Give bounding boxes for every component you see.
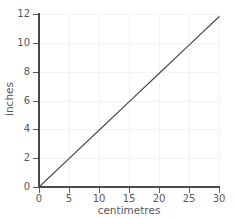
- x-axis-tick-label: 30: [207, 194, 231, 204]
- y-axis-tick-label: 2: [24, 153, 30, 163]
- gridline-vertical: [219, 14, 220, 187]
- y-axis-tick-label: 0: [24, 182, 30, 192]
- y-axis-tick: [33, 72, 38, 73]
- conversion-chart-figure: 024681012 051015202530 centimetres inche…: [0, 0, 236, 218]
- y-axis-tick-label: 6: [24, 96, 30, 106]
- y-axis-tick: [33, 129, 38, 130]
- plot-area: [39, 14, 219, 187]
- y-axis-tick: [33, 14, 38, 15]
- y-axis-spine: [38, 13, 40, 188]
- x-axis-tick-label: 25: [177, 194, 201, 204]
- x-axis-tick-label: 5: [57, 194, 81, 204]
- x-axis-title: centimetres: [39, 204, 219, 216]
- y-axis-tick: [33, 187, 38, 188]
- y-axis-tick-label: 12: [17, 9, 30, 19]
- y-axis-tick: [33, 158, 38, 159]
- y-axis-tick-label: 8: [24, 67, 30, 77]
- y-axis-title: inches: [3, 69, 15, 129]
- y-axis-tick: [33, 101, 38, 102]
- x-axis-tick-label: 20: [147, 194, 171, 204]
- data-line-svg: [39, 14, 219, 187]
- y-axis-tick-label: 4: [24, 124, 30, 134]
- x-axis-tick-label: 15: [117, 194, 141, 204]
- x-axis-tick-label: 0: [27, 194, 51, 204]
- y-axis-tick-label: 10: [17, 38, 30, 48]
- data-line-series: [39, 17, 219, 187]
- y-axis-tick: [33, 43, 38, 44]
- x-axis-tick-label: 10: [87, 194, 111, 204]
